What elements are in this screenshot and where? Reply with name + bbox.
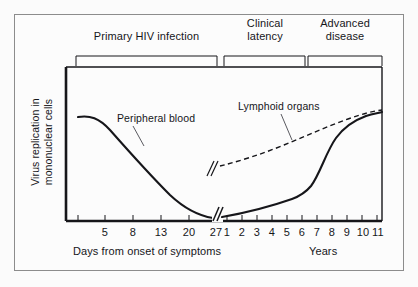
series-label-peripheral-blood: Peripheral blood — [117, 112, 195, 124]
x-tick-label-day-20: 20 — [178, 226, 200, 238]
section-bracket-advanced-disease — [308, 56, 382, 66]
leader-line-lymphoid-organs — [281, 114, 292, 140]
section-label-clinical-latency-line2: latency — [224, 30, 306, 43]
figure-container: Primary HIV infection Clinical latency A… — [0, 0, 418, 287]
x-tick-label-day-5: 5 — [94, 226, 116, 238]
series-peripheral-blood-rising — [222, 112, 382, 217]
y-axis-label-line2: mononuclear cells — [42, 64, 55, 219]
y-axis-label: Virus replication in mononuclear cells — [22, 64, 62, 219]
x-tick-label-year-11: 11 — [367, 226, 389, 238]
axis-break-mark-solid — [212, 206, 223, 222]
section-bracket-primary — [76, 56, 217, 66]
section-label-advanced-disease: Advanced disease — [306, 17, 384, 42]
x-tick-label-day-13: 13 — [150, 226, 172, 238]
x-axis-title-days: Days from onset of symptoms — [73, 245, 221, 257]
series-label-lymphoid-organs: Lymphoid organs — [238, 100, 320, 112]
plot-frame — [66, 67, 382, 221]
section-label-clinical-latency-line1: Clinical — [224, 17, 306, 30]
section-label-advanced-disease-line1: Advanced — [306, 17, 384, 30]
leader-line-peripheral-blood — [133, 126, 144, 146]
section-label-clinical-latency: Clinical latency — [224, 17, 306, 42]
x-tick-label-day-8: 8 — [122, 226, 144, 238]
chart-canvas — [0, 0, 418, 287]
x-axis-title-years: Years — [309, 245, 337, 257]
series-lymphoid-organs — [220, 110, 382, 166]
axis-break-mark-dashed — [207, 161, 218, 176]
y-axis-label-line1: Virus replication in — [29, 64, 42, 219]
section-bracket-clinical-latency — [224, 56, 305, 66]
section-label-advanced-disease-line2: disease — [306, 30, 384, 43]
section-label-primary-hiv-infection: Primary HIV infection — [74, 30, 219, 43]
series-peripheral-blood-descending — [78, 116, 213, 218]
